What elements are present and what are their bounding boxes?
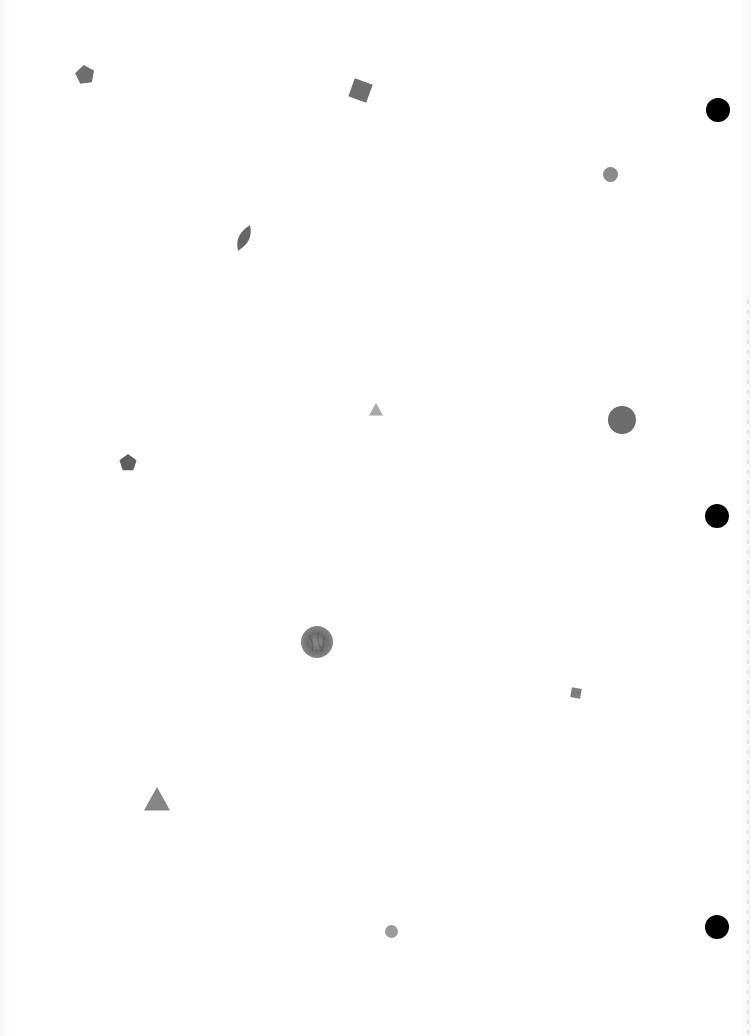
- page-edge-perforation: [747, 300, 749, 1036]
- small-triangle-shape: [369, 403, 383, 417]
- small-square-shape: [571, 688, 581, 698]
- textured-circle-shape: [301, 626, 333, 658]
- large-circle-shape: [608, 406, 636, 434]
- pentagon-shape: [75, 65, 95, 85]
- small-circle-shape: [603, 167, 618, 182]
- punch-hole-middle: [705, 504, 729, 528]
- leaf-shape: [236, 224, 252, 252]
- punch-hole-bottom: [705, 915, 729, 939]
- pentagon-shape: [119, 454, 137, 472]
- scanned-page: [0, 0, 751, 1036]
- square-shape: [351, 81, 370, 100]
- punch-hole-top: [706, 98, 730, 122]
- triangle-shape: [144, 787, 170, 813]
- small-circle-shape: [385, 925, 398, 938]
